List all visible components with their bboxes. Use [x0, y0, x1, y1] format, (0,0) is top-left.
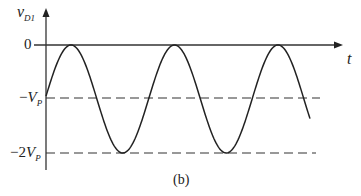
waveform-diagram: [0, 0, 361, 196]
level-0-label: 0: [24, 36, 32, 53]
level-minus-vp-label: −VP: [19, 89, 42, 108]
y-axis-label: vD1: [17, 3, 35, 23]
figure-caption: (b): [173, 172, 189, 188]
x-axis-arrow-icon: [334, 42, 343, 49]
level-minus-2vp-label: −2VP: [10, 144, 41, 163]
y-axis-arrow-icon: [43, 8, 50, 17]
vd1-waveform: [46, 45, 310, 153]
x-axis-label: t: [347, 50, 351, 68]
